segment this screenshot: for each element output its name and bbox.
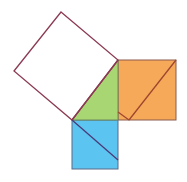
leg-b-square — [72, 120, 118, 169]
pythagoras-diagram — [0, 0, 187, 182]
leg-a-square — [118, 60, 176, 120]
